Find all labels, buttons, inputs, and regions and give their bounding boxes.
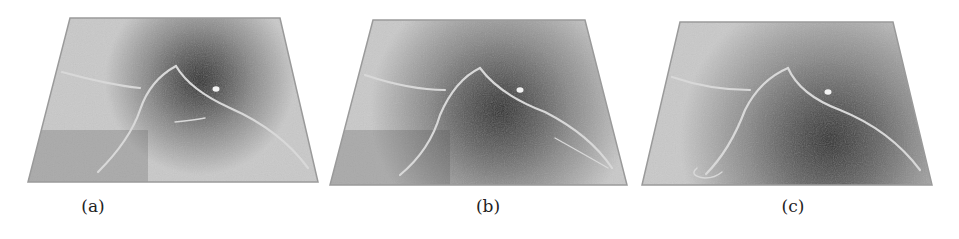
caption-b: (b) [476, 196, 500, 216]
source-marker [517, 87, 524, 93]
figure: (a) (b) (c) [0, 0, 959, 239]
source-marker [213, 86, 220, 92]
source-marker [825, 89, 832, 95]
caption-a: (a) [81, 196, 104, 216]
caption-c: (c) [782, 196, 805, 216]
